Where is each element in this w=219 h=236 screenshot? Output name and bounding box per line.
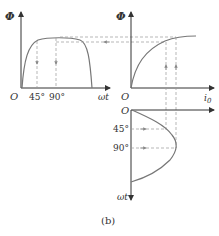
left-y-label: Φ xyxy=(5,10,15,23)
left-plot xyxy=(21,12,110,88)
right-y-label: Φ xyxy=(116,10,126,23)
right-x-label: i0 xyxy=(204,93,212,105)
bottom-plot xyxy=(131,110,214,200)
left-origin: O xyxy=(10,91,18,102)
left-tick-45: 45° xyxy=(29,92,45,102)
right-plot xyxy=(131,12,214,148)
bottom-tick-90: 90° xyxy=(113,143,129,153)
bottom-tick-45: 45° xyxy=(113,124,129,134)
flux-vs-time-curve xyxy=(22,38,92,88)
magnetization-diagram: Φ O 45° 90° ωt Φ O i0 O 45° 90° ωt (b) xyxy=(0,0,219,236)
right-origin: O xyxy=(121,91,129,102)
figure-caption: (b) xyxy=(101,215,115,226)
left-tick-90: 90° xyxy=(49,92,65,102)
bottom-origin: O xyxy=(121,105,129,116)
left-x-label: ωt xyxy=(98,92,109,102)
magnetization-curve xyxy=(131,36,196,88)
bottom-y-label: ωt xyxy=(117,192,128,202)
current-vs-time-curve xyxy=(131,110,176,182)
